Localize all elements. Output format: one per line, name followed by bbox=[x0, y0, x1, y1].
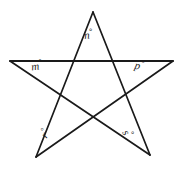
pentagram-figure: n° m° p° r° s° bbox=[0, 0, 184, 171]
star-edge-bottom-right-to-left bbox=[10, 61, 150, 155]
angle-label-m: m° bbox=[30, 58, 43, 72]
star-polygon-svg bbox=[0, 0, 184, 171]
angle-label-n: n° bbox=[83, 28, 93, 41]
star-edge-right-to-bottom-left bbox=[36, 61, 173, 157]
